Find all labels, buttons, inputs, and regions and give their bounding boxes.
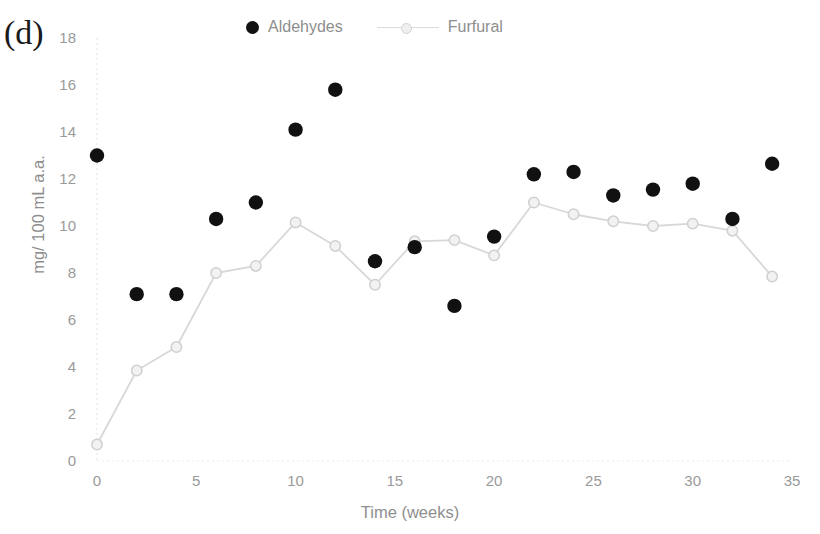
data-point-furfural <box>529 197 539 207</box>
data-point-aldehydes <box>90 148 104 162</box>
data-point-aldehydes <box>130 287 144 301</box>
data-point-furfural <box>727 226 737 236</box>
data-point-aldehydes <box>328 83 342 97</box>
data-point-furfural <box>648 221 658 231</box>
data-point-furfural <box>489 250 499 260</box>
data-point-aldehydes <box>169 287 183 301</box>
plot-area <box>0 0 820 534</box>
data-point-aldehydes <box>725 212 739 226</box>
series-line-furfural <box>97 203 772 445</box>
data-point-furfural <box>171 342 181 352</box>
data-point-aldehydes <box>249 195 263 209</box>
data-point-aldehydes <box>566 165 580 179</box>
data-point-aldehydes <box>447 299 461 313</box>
data-point-furfural <box>92 439 102 449</box>
data-point-furfural <box>370 280 380 290</box>
data-point-furfural <box>767 271 777 281</box>
data-point-aldehydes <box>686 177 700 191</box>
data-point-aldehydes <box>765 157 779 171</box>
data-point-furfural <box>251 261 261 271</box>
data-point-aldehydes <box>209 212 223 226</box>
data-point-aldehydes <box>368 254 382 268</box>
data-point-aldehydes <box>487 229 501 243</box>
data-point-aldehydes <box>288 122 302 136</box>
data-point-furfural <box>568 209 578 219</box>
data-point-aldehydes <box>646 182 660 196</box>
data-point-furfural <box>688 218 698 228</box>
data-point-furfural <box>449 235 459 245</box>
data-point-aldehydes <box>527 167 541 181</box>
data-point-furfural <box>290 217 300 227</box>
data-point-aldehydes <box>408 240 422 254</box>
data-point-furfural <box>132 365 142 375</box>
chart-figure: (d) Aldehydes Furfural mg/ 100 mL a.a. T… <box>0 0 820 534</box>
data-point-furfural <box>330 241 340 251</box>
data-point-furfural <box>211 268 221 278</box>
data-point-furfural <box>608 216 618 226</box>
data-point-aldehydes <box>606 188 620 202</box>
